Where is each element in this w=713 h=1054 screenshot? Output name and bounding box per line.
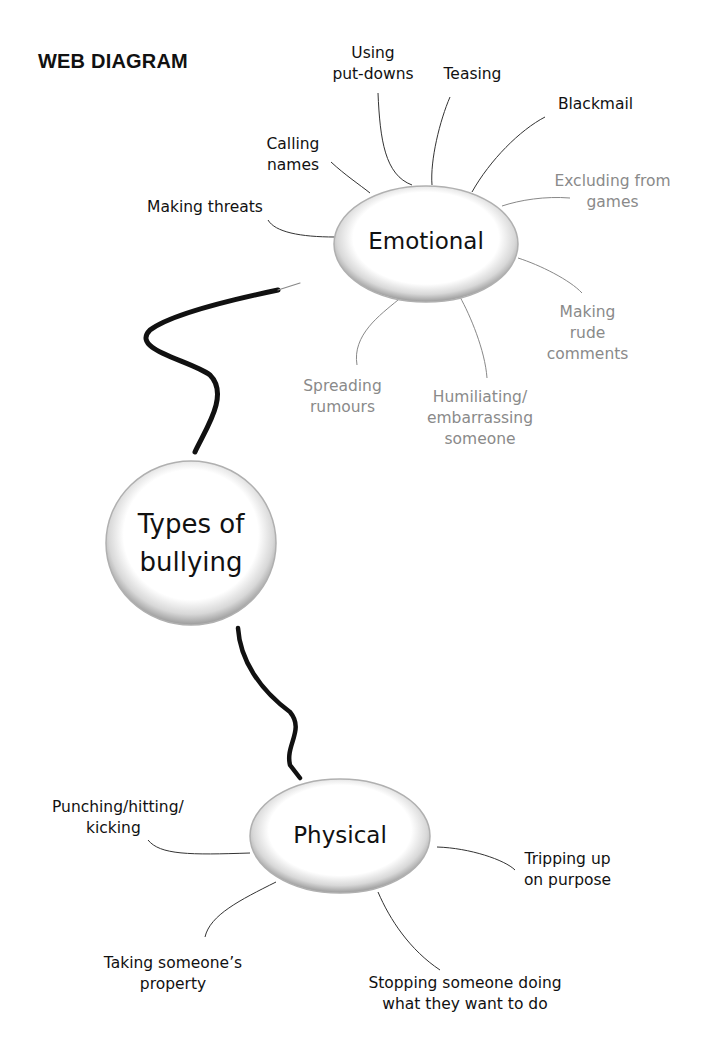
item-tripping-up: Tripping up on purpose <box>515 849 620 891</box>
item-line: Stopping someone doing <box>350 973 580 994</box>
item-line: Punching/hitting/ <box>52 797 222 818</box>
item-excluding-from-games: Excluding from games <box>540 171 685 213</box>
item-line: Taking someone’s <box>88 953 258 974</box>
item-line: Making threats <box>135 197 275 218</box>
item-making-threats: Making threats <box>135 197 275 218</box>
item-line: kicking <box>52 818 222 839</box>
item-line: Making <box>540 302 635 323</box>
item-line: rude <box>540 323 635 344</box>
item-line: someone <box>415 429 545 450</box>
item-line: on purpose <box>515 870 620 891</box>
item-line: comments <box>540 344 635 365</box>
item-taking-property: Taking someone’s property <box>88 953 258 995</box>
item-line: Blackmail <box>548 94 643 115</box>
item-line: rumours <box>290 397 395 418</box>
item-line: Tripping up <box>515 849 620 870</box>
item-making-rude-comments: Making rude comments <box>540 302 635 365</box>
item-line: property <box>88 974 258 995</box>
item-punching-hitting-kicking: Punching/hitting/ kicking <box>52 797 222 839</box>
item-humiliating-embarrassing: Humiliating/ embarrassing someone <box>415 387 545 450</box>
item-line: what they want to do <box>350 994 580 1015</box>
item-stopping-someone: Stopping someone doing what they want to… <box>350 973 580 1015</box>
item-line: Humiliating/ <box>415 387 545 408</box>
physical-node-label: Physical <box>250 822 430 848</box>
emotional-node-label: Emotional <box>336 228 516 254</box>
item-line: Using <box>318 43 428 64</box>
central-node-line1: Types of <box>106 505 276 543</box>
page-title: WEB DIAGRAM <box>38 50 188 73</box>
item-blackmail: Blackmail <box>548 94 643 115</box>
item-line: Calling <box>258 134 328 155</box>
item-line: embarrassing <box>415 408 545 429</box>
item-calling-names: Calling names <box>258 134 328 176</box>
item-line: Teasing <box>430 64 515 85</box>
item-line: put-downs <box>318 64 428 85</box>
item-line: Spreading <box>290 376 395 397</box>
item-using-put-downs: Using put-downs <box>318 43 428 85</box>
item-line: games <box>540 192 685 213</box>
item-spreading-rumours: Spreading rumours <box>290 376 395 418</box>
central-node-label: Types of bullying <box>106 505 276 581</box>
item-line: Excluding from <box>540 171 685 192</box>
item-line: names <box>258 155 328 176</box>
item-teasing: Teasing <box>430 64 515 85</box>
central-node-line2: bullying <box>106 543 276 581</box>
